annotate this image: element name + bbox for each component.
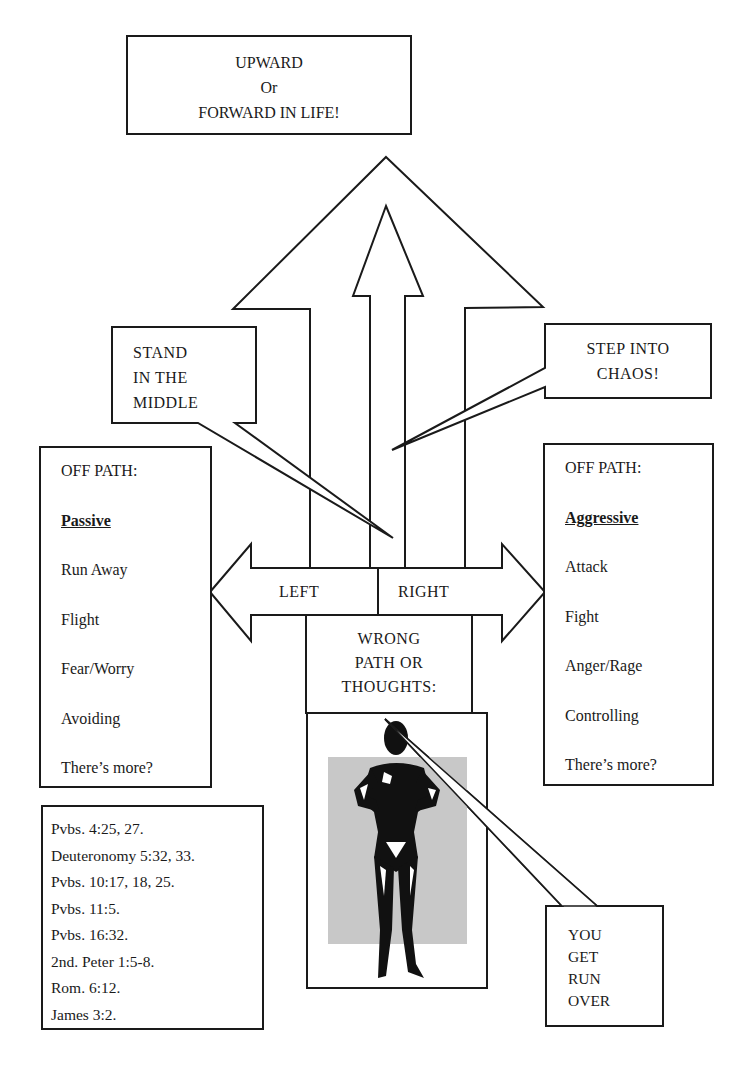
reference-item: Rom. 6:12. [51,975,195,1002]
left-panel-item: Run Away [61,561,128,579]
left-panel-item: There’s more? [61,759,153,777]
reference-item: Pvbs. 11:5. [51,896,195,923]
reference-item: 2nd. Peter 1:5-8. [51,949,195,976]
reference-item: Pvbs. 10:17, 18, 25. [51,869,195,896]
top-box-line-1: UPWARD [127,50,411,75]
right-panel-item: Fight [565,608,599,626]
callout-you-get-run-over: YOU GET RUN OVER [568,924,610,1012]
scripture-references: Pvbs. 4:25, 27. Deuteronomy 5:32, 33. Pv… [51,816,195,1028]
reference-item: Pvbs. 4:25, 27. [51,816,195,843]
reference-item: Deuteronomy 5:32, 33. [51,843,195,870]
right-panel-heading: OFF PATH: [565,459,641,477]
left-panel-category: Passive [61,512,111,530]
right-panel-item: Anger/Rage [565,657,642,675]
right-panel-item: Controlling [565,707,639,725]
wrong-path-line-2: PATH OR [306,651,472,675]
left-panel-item: Avoiding [61,710,120,728]
reference-item: Pvbs. 16:32. [51,922,195,949]
top-box-line-3: FORWARD IN LIFE! [127,100,411,125]
callout-runover-line-4: OVER [568,990,610,1012]
callout-middle-line-1: STAND [133,340,198,365]
left-panel-item: Fear/Worry [61,660,134,678]
right-direction-label: RIGHT [398,582,449,601]
right-panel-category: Aggressive [565,509,638,527]
callout-runover-line-2: GET [568,946,610,968]
top-box-line-2: Or [127,75,411,100]
callout-runover-line-3: RUN [568,968,610,990]
reference-item: James 3:2. [51,1002,195,1029]
callout-middle-line-2: IN THE [133,365,198,390]
left-direction-label: LEFT [279,582,319,601]
callout-stand-in-middle: STAND IN THE MIDDLE [133,340,198,415]
callout-chaos-line-1: STEP INTO [545,336,711,361]
left-panel-item: Flight [61,611,99,629]
wrong-path-line-1: WRONG [306,627,472,651]
right-panel-item: Attack [565,558,608,576]
callout-step-into-chaos: STEP INTO CHAOS! [545,336,711,386]
callout-chaos-line-2: CHAOS! [545,361,711,386]
wrong-path-line-3: THOUGHTS: [306,675,472,699]
right-panel-item: There’s more? [565,756,657,774]
callout-middle-line-3: MIDDLE [133,390,198,415]
left-panel-heading: OFF PATH: [61,462,137,480]
wrong-path-box: WRONG PATH OR THOUGHTS: [306,627,472,699]
callout-runover-line-1: YOU [568,924,610,946]
top-box: UPWARD Or FORWARD IN LIFE! [127,50,411,125]
